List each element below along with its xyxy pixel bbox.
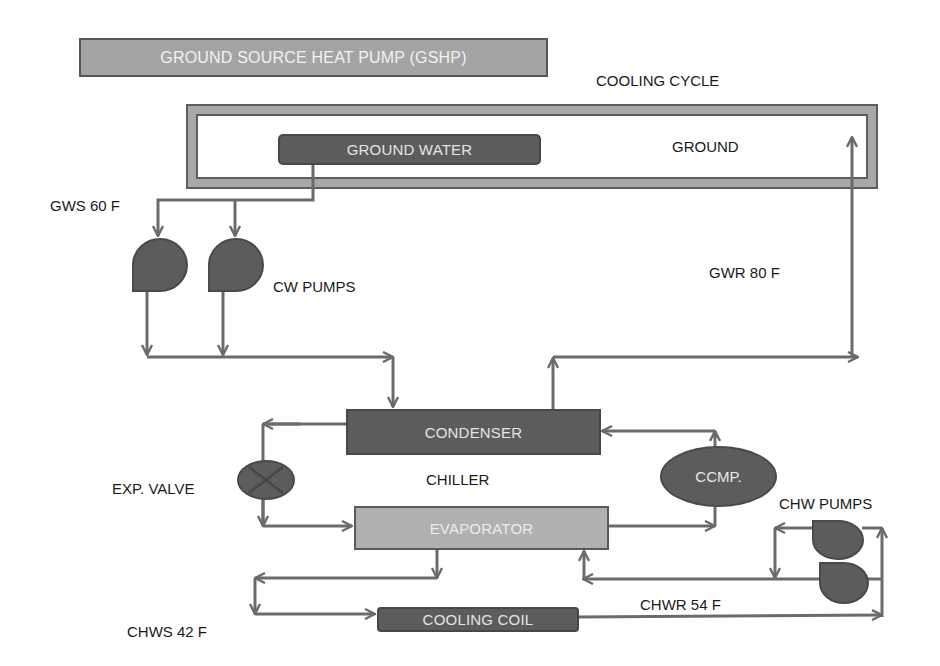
cw-pump-2-icon	[209, 239, 263, 291]
cw-pump-1-icon	[133, 239, 187, 291]
gws-label: GWS 60 F	[50, 198, 120, 213]
chwr-label: CHWR 54 F	[640, 597, 721, 612]
cooling-coil-box: COOLING COIL	[377, 607, 579, 632]
piping-network	[0, 0, 940, 666]
evaporator-box: EVAPORATOR	[354, 506, 609, 550]
chiller-label: CHILLER	[426, 472, 489, 487]
cw-pumps-label: CW PUMPS	[273, 279, 356, 294]
chw-pump-1-icon	[813, 521, 863, 559]
condenser-label: CONDENSER	[425, 424, 523, 441]
cooling-coil-label: COOLING COIL	[423, 611, 534, 628]
evaporator-label: EVAPORATOR	[430, 520, 534, 537]
compressor-label: CCMP.	[695, 468, 741, 485]
chws-label: CHWS 42 F	[127, 624, 207, 639]
exp-valve-label: EXP. VALVE	[112, 481, 195, 496]
chw-pumps-label: CHW PUMPS	[779, 496, 872, 511]
gwr-label: GWR 80 F	[709, 265, 780, 280]
condenser-box: CONDENSER	[346, 409, 601, 455]
compressor-ellipse: CCMP.	[660, 446, 777, 507]
gshp-cooling-cycle-diagram: GROUND SOURCE HEAT PUMP (GSHP) COOLING C…	[0, 0, 940, 666]
chwr-pipe	[578, 615, 882, 617]
expansion-valve-icon	[238, 461, 294, 499]
chw-pump-2-icon	[820, 563, 868, 603]
